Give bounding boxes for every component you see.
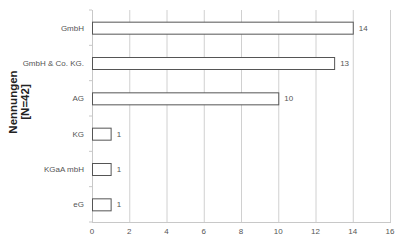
category-label: KG <box>72 130 84 139</box>
bars <box>93 22 354 211</box>
category-label: KGaA mbH <box>44 165 84 174</box>
data-label: 1 <box>117 200 122 209</box>
data-label: 14 <box>359 24 368 33</box>
labels: 0246810121416GmbH14GmbH & Co. KG.13AG10K… <box>23 24 395 236</box>
bar <box>93 93 279 105</box>
x-tick-label: 0 <box>90 227 95 236</box>
x-tick-label: 12 <box>311 227 320 236</box>
x-tick-label: 2 <box>127 227 132 236</box>
bar <box>93 199 112 211</box>
data-label: 13 <box>340 59 349 68</box>
bar <box>93 22 354 34</box>
category-label: eG <box>73 200 84 209</box>
bar <box>93 128 112 140</box>
x-tick-label: 14 <box>348 227 357 236</box>
x-tick-label: 4 <box>164 227 169 236</box>
data-label: 1 <box>117 165 122 174</box>
bar <box>93 58 335 70</box>
bar <box>93 164 112 176</box>
x-tick-label: 16 <box>386 227 395 236</box>
category-label: GmbH <box>61 24 84 33</box>
data-label: 10 <box>284 94 293 103</box>
category-label: AG <box>72 94 84 103</box>
category-label: GmbH & Co. KG. <box>23 59 84 68</box>
x-tick-label: 8 <box>239 227 244 236</box>
gridlines <box>130 10 391 222</box>
bar-chart: 0246810121416GmbH14GmbH & Co. KG.13AG10K… <box>0 0 399 239</box>
axes <box>89 10 391 223</box>
x-tick-label: 6 <box>202 227 207 236</box>
x-tick-label: 10 <box>274 227 283 236</box>
data-label: 1 <box>117 130 122 139</box>
